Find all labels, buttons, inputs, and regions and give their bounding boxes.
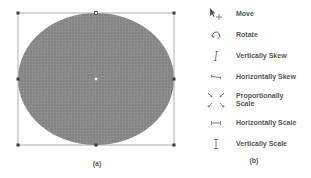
- handle-middle-right[interactable]: [173, 78, 176, 81]
- handle-top-middle[interactable]: [95, 12, 98, 15]
- horizontal-skew-cursor-icon: [205, 70, 227, 84]
- rotate-cursor-icon: [205, 28, 227, 42]
- legend-item-vertically-scale: Vertically Scale: [205, 137, 311, 151]
- selected-ellipse-diagram: [0, 0, 190, 178]
- legend-label: Vertically Scale: [236, 140, 287, 148]
- horizontal-scale-cursor-icon: [205, 116, 227, 130]
- legend-item-proportionally-scale: Proportionally Scale: [205, 91, 311, 109]
- legend-item-vertically-skew: Vertically Skew: [205, 49, 311, 63]
- legend-label: Proportionally Scale: [236, 92, 296, 108]
- center-point-marker[interactable]: [95, 78, 97, 80]
- handle-bottom-right[interactable]: [173, 144, 176, 147]
- move-cursor-icon: [205, 7, 227, 21]
- proportional-scale-cursor-icon: [205, 91, 227, 109]
- caption-a: (a): [87, 160, 107, 167]
- legend-item-horizontally-scale: Horizontally Scale: [205, 116, 311, 130]
- legend-item-horizontally-skew: Horizontally Skew: [205, 70, 311, 84]
- legend-label: Rotate: [236, 31, 258, 39]
- legend-label: Move: [236, 10, 254, 18]
- handle-bottom-middle[interactable]: [95, 144, 98, 147]
- panel-b-cursor-legend: Move Rotate Vertically Skew: [205, 0, 311, 178]
- handle-top-left[interactable]: [17, 12, 20, 15]
- handle-middle-left[interactable]: [17, 78, 20, 81]
- handle-bottom-left[interactable]: [17, 144, 20, 147]
- legend-item-move: Move: [205, 7, 311, 21]
- caption-b: (b): [244, 157, 264, 164]
- vertical-scale-cursor-icon: [205, 137, 227, 151]
- legend-item-rotate: Rotate: [205, 28, 311, 42]
- legend-label: Vertically Skew: [236, 52, 287, 60]
- legend-label: Horizontally Skew: [236, 73, 296, 81]
- handle-top-right[interactable]: [173, 12, 176, 15]
- legend-label: Horizontally Scale: [236, 119, 296, 127]
- panel-a-ellipse-selection: (a): [0, 0, 190, 178]
- vertical-skew-cursor-icon: [205, 49, 227, 63]
